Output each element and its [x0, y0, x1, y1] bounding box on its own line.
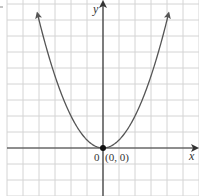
parabola-right-branch — [103, 14, 169, 148]
parabola-left-branch — [37, 14, 103, 148]
vertex-annotation: (0, 0) — [105, 151, 129, 164]
coordinate-plane: y x 0 (0, 0) — [0, 0, 199, 196]
x-axis-label: x — [188, 149, 195, 163]
y-axis-label: y — [92, 2, 99, 16]
origin-label: 0 — [94, 151, 100, 163]
